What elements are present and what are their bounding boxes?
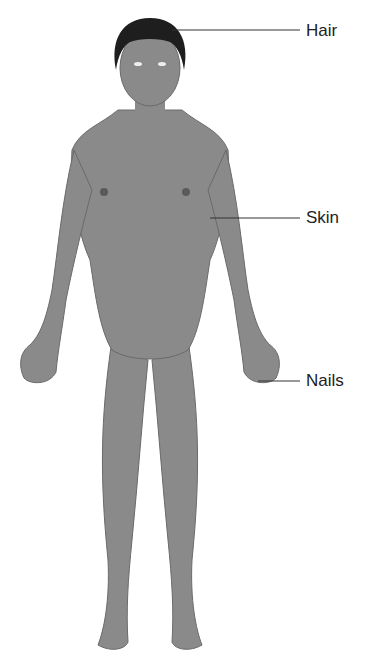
- integumentary-diagram: Hair Skin Nails: [0, 0, 377, 660]
- right-eye: [158, 62, 166, 66]
- left-arm: [21, 150, 92, 383]
- left-leg: [98, 340, 148, 649]
- left-eye: [134, 62, 142, 66]
- right-nipple: [182, 188, 190, 196]
- right-leg: [152, 340, 202, 649]
- left-nipple: [100, 188, 108, 196]
- human-body-figure: [0, 0, 377, 660]
- torso: [72, 110, 229, 359]
- hair-label: Hair: [306, 22, 337, 39]
- nails-label: Nails: [306, 372, 344, 389]
- right-arm: [208, 150, 279, 383]
- skin-label: Skin: [306, 209, 339, 226]
